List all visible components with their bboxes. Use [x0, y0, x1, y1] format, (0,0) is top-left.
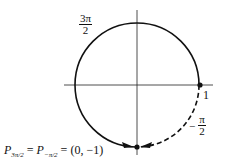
equation-label: P3π/2 = P−π/2 = (0, −1) [4, 143, 103, 159]
arrowhead-dashed-icon [140, 142, 152, 148]
eq-equals-1: = [24, 143, 37, 157]
label-neg-pi-denominator: 2 [199, 126, 205, 137]
point-0-neg1 [134, 144, 139, 149]
label-3pi-over-2: 3π 2 [79, 13, 92, 36]
eq-p1-sub: 3π/2 [11, 151, 23, 159]
arrowhead-solid-icon [122, 142, 134, 148]
label-one: 1 [203, 88, 209, 103]
unit-circle-diagram [0, 0, 227, 163]
label-neg-sign: − [189, 120, 195, 132]
eq-equals-2: = [58, 143, 71, 157]
point-1-0 [197, 82, 202, 87]
eq-p2-sub: −π/2 [44, 151, 58, 159]
eq-point: (0, −1) [70, 143, 103, 157]
label-3pi-over-2-denominator: 2 [83, 25, 89, 36]
eq-p2: P [37, 143, 44, 157]
label-neg-pi-over-2: − π 2 [189, 114, 206, 137]
